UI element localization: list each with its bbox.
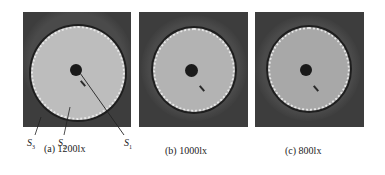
caption-b: (b) 1000lx xyxy=(165,145,207,156)
panel-b-image xyxy=(139,12,248,127)
label-s1: S1 xyxy=(124,137,132,150)
center-dot xyxy=(185,64,198,77)
center-dot xyxy=(300,64,312,76)
center-dot xyxy=(70,64,82,76)
label-s3: S3 xyxy=(27,137,35,150)
caption-a: (a) 1200lx xyxy=(44,143,85,154)
panel-c-image xyxy=(255,12,364,127)
caption-c: (c) 800lx xyxy=(285,145,321,156)
panel-a-image xyxy=(23,12,131,127)
